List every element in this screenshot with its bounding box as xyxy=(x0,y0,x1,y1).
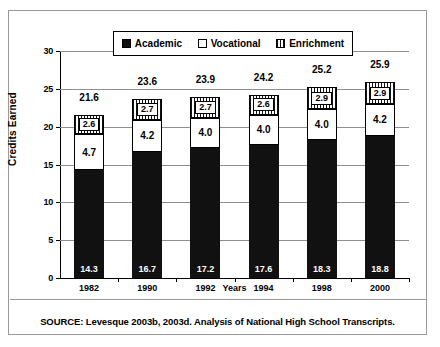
y-axis-tick-label: 10 xyxy=(27,197,53,207)
bar-segment-value-enrichment: 2.6 xyxy=(253,98,274,111)
bar-segment-value-academic: 18.8 xyxy=(371,264,389,274)
bar-segment-value-vocational: 4.2 xyxy=(373,114,387,125)
bar-segment-enrichment: 2.9 xyxy=(365,82,395,104)
plot-area: 14.34.72.621.616.74.22.723.617.24.02.723… xyxy=(60,51,409,278)
bar-segment-value-enrichment: 2.6 xyxy=(79,118,100,131)
x-axis-tick-mark xyxy=(235,278,236,282)
bar-segment-vocational: 4.0 xyxy=(249,115,279,145)
bar-segment-value-vocational: 4.0 xyxy=(315,119,329,130)
bar-segment-enrichment: 2.6 xyxy=(249,95,279,115)
bar-segment-academic: 17.2 xyxy=(190,148,220,278)
y-axis-tick-label: 30 xyxy=(27,46,53,56)
bar-group[interactable]: 16.74.22.723.6 xyxy=(132,51,162,278)
bar-total-label: 21.6 xyxy=(59,92,119,103)
bar-segment-value-academic: 18.3 xyxy=(313,264,331,274)
bar-group[interactable]: 17.64.02.624.2 xyxy=(249,51,279,278)
bar-segment-enrichment: 2.9 xyxy=(307,87,337,109)
bar-segment-value-vocational: 4.0 xyxy=(257,124,271,135)
bar-group[interactable]: 17.24.02.723.9 xyxy=(190,51,220,278)
bar-segment-value-academic: 14.3 xyxy=(80,264,98,274)
white-swatch-icon xyxy=(198,39,207,48)
bar-segment-vocational: 4.0 xyxy=(190,118,220,148)
bar-segment-academic: 17.6 xyxy=(249,145,279,278)
bar-segment-value-academic: 16.7 xyxy=(138,264,156,274)
legend-item-enrichment: Enrichment xyxy=(276,38,344,49)
bar-total-label: 23.6 xyxy=(117,76,177,87)
bar-segment-vocational: 4.2 xyxy=(365,104,395,136)
bar-segment-value-vocational: 4.2 xyxy=(140,130,154,141)
bar-segment-enrichment: 2.6 xyxy=(74,115,104,135)
bar-segment-academic: 18.3 xyxy=(307,140,337,278)
bar-segment-value-vocational: 4.0 xyxy=(198,127,212,138)
bar-group[interactable]: 14.34.72.621.6 xyxy=(74,51,104,278)
legend-label-academic: Academic xyxy=(135,38,182,49)
figure-frame: Credits Earned 051015202530 14.34.72.621… xyxy=(8,10,427,335)
solid-black-swatch-icon xyxy=(122,39,131,48)
x-axis-title: Years xyxy=(215,283,255,293)
bar-total-label: 24.2 xyxy=(234,72,294,83)
legend-item-vocational: Vocational xyxy=(198,38,261,49)
y-axis-tick-label: 5 xyxy=(27,235,53,245)
bar-segment-value-academic: 17.6 xyxy=(255,264,273,274)
gridline xyxy=(60,89,409,90)
gridline xyxy=(60,127,409,128)
y-axis-tick-label: 0 xyxy=(27,273,53,283)
bar-segment-value-vocational: 4.7 xyxy=(82,147,96,158)
y-axis-tick-label: 20 xyxy=(27,122,53,132)
x-axis-tick-mark xyxy=(293,278,294,282)
bar-segment-academic: 14.3 xyxy=(74,170,104,278)
bar-total-label: 25.9 xyxy=(350,59,410,70)
bar-segment-value-enrichment: 2.9 xyxy=(311,92,332,105)
gridline xyxy=(60,240,409,241)
legend-item-academic: Academic xyxy=(122,38,182,49)
bar-segment-vocational: 4.0 xyxy=(307,109,337,139)
y-axis-tick-label: 15 xyxy=(27,160,53,170)
bar-segment-vocational: 4.7 xyxy=(74,134,104,170)
bar-segment-academic: 18.8 xyxy=(365,136,395,278)
bar-segment-value-academic: 17.2 xyxy=(197,264,215,274)
bar-segment-value-enrichment: 2.9 xyxy=(370,87,391,100)
source-caption: SOURCE: Levesque 2003b, 2003d. Analysis … xyxy=(9,316,426,327)
bar-segment-enrichment: 2.7 xyxy=(190,97,220,117)
bar-segment-academic: 16.7 xyxy=(132,152,162,278)
bar-segment-value-enrichment: 2.7 xyxy=(137,103,158,116)
hatched-swatch-icon xyxy=(276,39,285,48)
x-axis-tick-mark xyxy=(176,278,177,282)
y-axis-title: Credits Earned xyxy=(7,92,18,166)
x-axis-tick-label: 1998 xyxy=(292,283,352,293)
bar-total-label: 23.9 xyxy=(175,74,235,85)
x-axis-tick-label: 2000 xyxy=(350,283,410,293)
bar-segment-vocational: 4.2 xyxy=(132,120,162,152)
y-axis-tick-label: 25 xyxy=(27,84,53,94)
x-axis-tick-mark xyxy=(351,278,352,282)
y-axis-tick-mark xyxy=(56,278,60,279)
chart-legend: Academic Vocational Enrichment xyxy=(113,31,353,56)
x-axis-tick-label: 1982 xyxy=(59,283,119,293)
bar-group[interactable]: 18.34.02.925.2 xyxy=(307,51,337,278)
bar-segment-enrichment: 2.7 xyxy=(132,99,162,119)
bar-group[interactable]: 18.84.22.925.9 xyxy=(365,51,395,278)
gridline xyxy=(60,165,409,166)
gridline xyxy=(60,202,409,203)
x-axis-tick-mark xyxy=(409,278,410,282)
bar-total-label: 25.2 xyxy=(292,64,352,75)
source-divider xyxy=(10,299,427,300)
bar-segment-value-enrichment: 2.7 xyxy=(195,101,216,114)
x-axis-tick-mark xyxy=(118,278,119,282)
x-axis-tick-label: 1990 xyxy=(117,283,177,293)
legend-label-enrichment: Enrichment xyxy=(289,38,344,49)
legend-label-vocational: Vocational xyxy=(211,38,261,49)
